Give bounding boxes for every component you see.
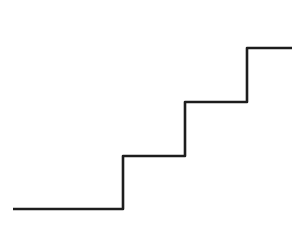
drawing-canvas — [0, 0, 292, 235]
canvas-background — [0, 0, 292, 235]
staircase-figure — [0, 0, 292, 235]
